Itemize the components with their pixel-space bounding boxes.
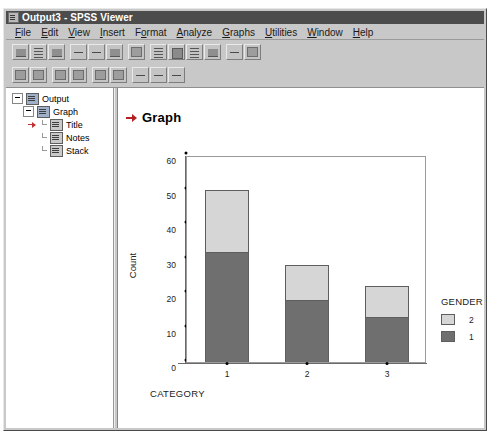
tree-expander-output[interactable] xyxy=(12,93,23,104)
goto-case-button[interactable] xyxy=(168,44,185,60)
menu-item-file[interactable]: File xyxy=(10,27,36,38)
tree-expander-graph[interactable] xyxy=(23,106,34,117)
page-title: Graph xyxy=(142,110,181,125)
promote-button[interactable] xyxy=(12,67,29,83)
insert-cases-icon xyxy=(230,52,239,53)
tree-item-output[interactable]: Output xyxy=(12,92,113,105)
spss-viewer-window: Output3 - SPSS Viewer FileEditViewInsert… xyxy=(3,8,487,431)
x-tick xyxy=(306,362,309,365)
tree-item-stack[interactable]: Stack xyxy=(12,144,113,157)
graph-heading-row[interactable]: Graph xyxy=(126,110,181,125)
recall-dialog-button[interactable] xyxy=(106,44,123,60)
insert-text-button[interactable] xyxy=(168,67,185,83)
title-bar[interactable]: Output3 - SPSS Viewer xyxy=(6,11,484,24)
bar-category-3[interactable] xyxy=(365,286,409,362)
plot-frame xyxy=(186,156,426,363)
bar-segment-series-1 xyxy=(205,252,249,362)
select-cases-button[interactable] xyxy=(244,44,261,60)
select-cases-icon xyxy=(247,47,258,57)
tree-item-label: Stack xyxy=(66,146,89,156)
menu-item-view[interactable]: View xyxy=(63,27,95,38)
undo-icon xyxy=(131,47,142,57)
menu-item-insert[interactable]: Insert xyxy=(95,27,130,38)
menu-item-window[interactable]: Window xyxy=(302,27,348,38)
tree-connector xyxy=(38,133,47,142)
stacked-bar-chart[interactable]: 0102030405060 Count 123 CATEGORY GENDER … xyxy=(138,156,484,416)
x-tick-label: 3 xyxy=(385,369,390,379)
notes-book-icon xyxy=(50,132,63,144)
bar-category-1[interactable] xyxy=(205,190,249,362)
plot-area xyxy=(187,157,425,362)
variables-button[interactable] xyxy=(186,44,203,60)
x-tick-label: 2 xyxy=(305,369,310,379)
insert-cases-button[interactable] xyxy=(226,44,243,60)
insert-text-icon xyxy=(172,75,181,76)
tree-item-graph[interactable]: Graph xyxy=(12,105,113,118)
print-icon xyxy=(52,49,62,57)
variables-icon xyxy=(190,48,199,49)
x-axis: 123 xyxy=(178,363,427,385)
insert-heading-icon xyxy=(136,75,145,76)
goto-case-icon xyxy=(172,48,183,59)
menu-item-analyze[interactable]: Analyze xyxy=(172,27,218,38)
menu-item-utilities[interactable]: Utilities xyxy=(260,27,302,38)
toolbar-secondary xyxy=(6,63,484,88)
hide-icon xyxy=(113,70,124,80)
menu-item-edit[interactable]: Edit xyxy=(36,27,63,38)
insert-title-button[interactable] xyxy=(150,67,167,83)
outline-pane[interactable]: OutputGraphTitleNotesStack xyxy=(6,88,114,428)
print-button[interactable] xyxy=(48,44,65,60)
insert-heading-button[interactable] xyxy=(132,67,149,83)
tree-item-label: Graph xyxy=(53,107,78,117)
goto-data-icon xyxy=(154,48,163,49)
save-file-icon xyxy=(34,48,43,49)
show-icon xyxy=(95,70,106,80)
legend-entry-2: 2 xyxy=(441,314,484,325)
x-tick xyxy=(386,362,389,365)
menu-item-help[interactable]: Help xyxy=(348,27,379,38)
save-file-button[interactable] xyxy=(30,44,47,60)
title-book-icon xyxy=(50,119,63,131)
legend-label: 2 xyxy=(469,315,474,325)
legend-swatch xyxy=(441,331,455,342)
tree-item-title[interactable]: Title xyxy=(12,118,113,131)
open-file-icon xyxy=(16,49,26,57)
collapse-icon xyxy=(73,70,84,80)
demote-button[interactable] xyxy=(30,67,47,83)
bar-segment-series-2 xyxy=(285,265,329,300)
output-pane[interactable]: Graph 0102030405060 Count 123 CATEGORY xyxy=(118,88,484,428)
menu-item-graphs[interactable]: Graphs xyxy=(217,27,260,38)
hide-button[interactable] xyxy=(110,67,127,83)
stack-book-icon xyxy=(50,145,63,157)
find-button[interactable] xyxy=(204,44,221,60)
spss-viewer-icon xyxy=(8,12,19,23)
expand-button[interactable] xyxy=(52,67,69,83)
tree-item-label: Notes xyxy=(66,133,90,143)
open-file-button[interactable] xyxy=(12,44,29,60)
insert-title-icon xyxy=(154,75,163,76)
toolbar-primary xyxy=(6,40,484,64)
tree-connector xyxy=(38,146,47,155)
output-doc-icon xyxy=(26,93,39,105)
collapse-button[interactable] xyxy=(70,67,87,83)
legend-swatch xyxy=(441,314,455,325)
tree-item-notes[interactable]: Notes xyxy=(12,131,113,144)
print-preview-button[interactable] xyxy=(70,44,87,60)
tree-item-label: Title xyxy=(66,120,83,130)
menu-item-format[interactable]: Format xyxy=(130,27,172,38)
undo-button[interactable] xyxy=(128,44,145,60)
print-preview-icon xyxy=(74,52,83,53)
bar-category-2[interactable] xyxy=(285,265,329,362)
window-title: Output3 - SPSS Viewer xyxy=(22,12,133,23)
y-axis-title: Count xyxy=(127,253,138,278)
menu-bar: FileEditViewInsertFormatAnalyzeGraphsUti… xyxy=(6,25,484,40)
red-arrow-icon xyxy=(126,113,138,123)
expand-icon xyxy=(55,70,66,80)
bar-segment-series-2 xyxy=(205,190,249,252)
export-icon xyxy=(92,52,101,53)
goto-data-button[interactable] xyxy=(150,44,167,60)
x-tick xyxy=(226,362,229,365)
show-button[interactable] xyxy=(92,67,109,83)
client-area: OutputGraphTitleNotesStack Graph 0102030… xyxy=(6,88,484,428)
export-button[interactable] xyxy=(88,44,105,60)
